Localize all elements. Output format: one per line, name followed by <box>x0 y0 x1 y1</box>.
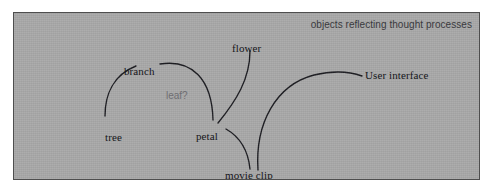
node-label-tree: tree <box>105 132 122 143</box>
edge-movieclip-userinterface <box>258 72 362 170</box>
figure-caption: objects reflecting thought processes <box>311 19 472 30</box>
node-label-flower: flower <box>232 43 261 54</box>
edge-flower-petal <box>218 51 250 123</box>
node-label-leaf: leaf? <box>166 91 188 101</box>
node-label-user-interface: User interface <box>365 70 428 81</box>
edge-petal-movieclip <box>226 129 250 169</box>
node-label-branch: branch <box>124 66 155 77</box>
diagram-edge-layer <box>14 13 479 179</box>
node-label-movie-clip: movie clip <box>225 170 273 180</box>
node-label-petal: petal <box>196 131 218 142</box>
diagram-figure: objects reflecting thought processes tre… <box>13 12 480 180</box>
